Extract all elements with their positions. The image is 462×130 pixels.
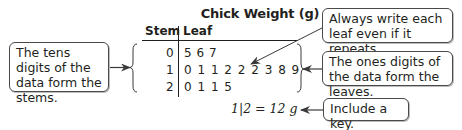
right-brace-icon xyxy=(297,44,303,92)
diagram-lines xyxy=(0,0,462,130)
left-brace-icon xyxy=(130,44,137,92)
arrow-diagonal-icon xyxy=(251,28,322,64)
